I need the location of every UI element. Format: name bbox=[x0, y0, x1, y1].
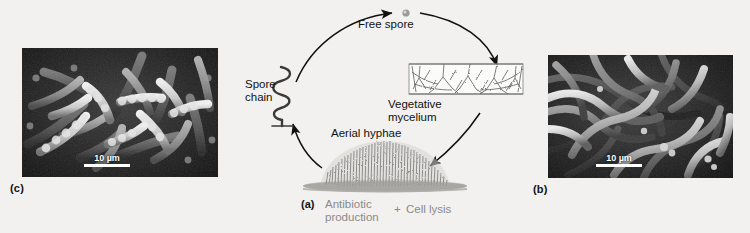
arrow-aerial-hyphae-to-spore-chain bbox=[293, 124, 322, 168]
caption-antibiotic-line2: production bbox=[325, 211, 379, 223]
caption-cell-lysis: Cell lysis bbox=[406, 203, 451, 216]
arrow-free-spore-to-mycelium bbox=[420, 13, 497, 66]
caption-antibiotic-production: Antibiotic production bbox=[325, 198, 379, 224]
caption-antibiotic-line1: Antibiotic bbox=[325, 198, 372, 210]
panel-label-a: (a) bbox=[301, 198, 314, 211]
free-spore-dot bbox=[402, 9, 409, 16]
label-free-spore: Free spore bbox=[358, 18, 414, 31]
streptomyces-life-cycle-figure: 10 µm (c) bbox=[0, 0, 750, 233]
label-vegetative-mycelium: Vegetative mycelium bbox=[388, 98, 442, 124]
label-spore-chain: Spore chain bbox=[245, 78, 276, 104]
vegetative-mycelium-illustration bbox=[409, 64, 523, 94]
label-spore-chain-line1: Spore bbox=[245, 78, 276, 90]
label-spore-chain-line2: chain bbox=[245, 91, 273, 103]
label-aerial-hyphae: Aerial hyphae bbox=[331, 127, 401, 140]
caption-plus: + bbox=[394, 203, 401, 216]
aerial-hyphae-illustration bbox=[303, 141, 467, 193]
label-vegetative-mycelium-line2: mycelium bbox=[388, 111, 437, 123]
label-vegetative-mycelium-line1: Vegetative bbox=[388, 98, 442, 110]
